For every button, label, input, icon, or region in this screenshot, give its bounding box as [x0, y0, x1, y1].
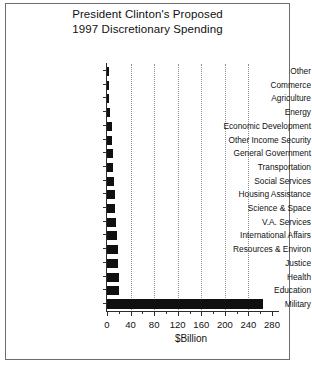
category-label: Commerce: [207, 78, 311, 92]
bar-row: Social Services: [0, 174, 311, 188]
x-tick-260: [260, 311, 261, 314]
bar-row: Science & Space: [0, 201, 311, 215]
category-label: Economic Development: [207, 119, 311, 133]
bar: [107, 259, 118, 268]
bar: [107, 67, 109, 76]
category-label: V.A. Services: [207, 215, 311, 229]
bar: [107, 218, 116, 227]
bar-row: Commerce: [0, 78, 311, 92]
category-label: Energy: [207, 105, 311, 119]
x-tick-40: [131, 311, 132, 316]
x-tick-60: [142, 311, 143, 314]
bar-row: Military: [0, 297, 311, 311]
bar-row: Other: [0, 64, 311, 78]
bar-row: Justice: [0, 256, 311, 270]
x-axis-line: [106, 311, 279, 312]
bar: [107, 299, 263, 309]
bar: [107, 94, 109, 103]
bar-row: Economic Development: [0, 119, 311, 133]
x-tick-240: [248, 311, 249, 316]
bar-row: Education: [0, 283, 311, 297]
category-label: Other Income Security: [207, 133, 311, 147]
bar: [107, 122, 112, 131]
x-tick-20: [119, 311, 120, 314]
x-tick-140: [190, 311, 191, 314]
x-tick-280: [272, 311, 273, 316]
x-tick-160: [201, 311, 202, 316]
category-label: Health: [207, 270, 311, 284]
category-label: General Government: [207, 146, 311, 160]
x-tick-label: 280: [257, 319, 287, 330]
bar-row: V.A. Services: [0, 215, 311, 229]
bar: [107, 245, 118, 254]
bar-row: Transportation: [0, 160, 311, 174]
x-tick-220: [237, 311, 238, 314]
bar-row: Resources & Environ: [0, 242, 311, 256]
bar: [107, 273, 119, 282]
bar: [107, 108, 110, 117]
category-label: Other: [207, 64, 311, 78]
category-label: International Affairs: [207, 228, 311, 242]
bar: [107, 190, 115, 199]
x-axis-title: $Billion: [107, 333, 275, 344]
bar-row: Housing Assistance: [0, 187, 311, 201]
bar-row: Other Income Security: [0, 133, 311, 147]
category-label: Science & Space: [207, 201, 311, 215]
x-tick-80: [154, 311, 155, 316]
bar: [107, 163, 113, 172]
bar-row: Agriculture: [0, 91, 311, 105]
category-label: Social Services: [207, 174, 311, 188]
bar: [107, 231, 117, 240]
x-tick-200: [225, 311, 226, 316]
category-label: Transportation: [207, 160, 311, 174]
x-tick-0: [107, 311, 108, 316]
bar: [107, 177, 114, 186]
bar-row: International Affairs: [0, 228, 311, 242]
category-label: Resources & Environ: [207, 242, 311, 256]
bar-row: General Government: [0, 146, 311, 160]
category-label: Justice: [207, 256, 311, 270]
category-label: Education: [207, 283, 311, 297]
bar: [107, 286, 119, 295]
x-tick-180: [213, 311, 214, 314]
x-tick-120: [178, 311, 179, 316]
bar: [107, 204, 115, 213]
bar: [107, 136, 112, 145]
bar: [107, 81, 109, 90]
bar-row: Energy: [0, 105, 311, 119]
category-label: Housing Assistance: [207, 187, 311, 201]
bar-row: Health: [0, 270, 311, 284]
x-tick-100: [166, 311, 167, 314]
plot-area: OtherCommerceAgricultureEnergyEconomic D…: [0, 0, 311, 375]
category-label: Agriculture: [207, 91, 311, 105]
y-axis-line: [106, 63, 107, 311]
bar: [107, 149, 113, 158]
